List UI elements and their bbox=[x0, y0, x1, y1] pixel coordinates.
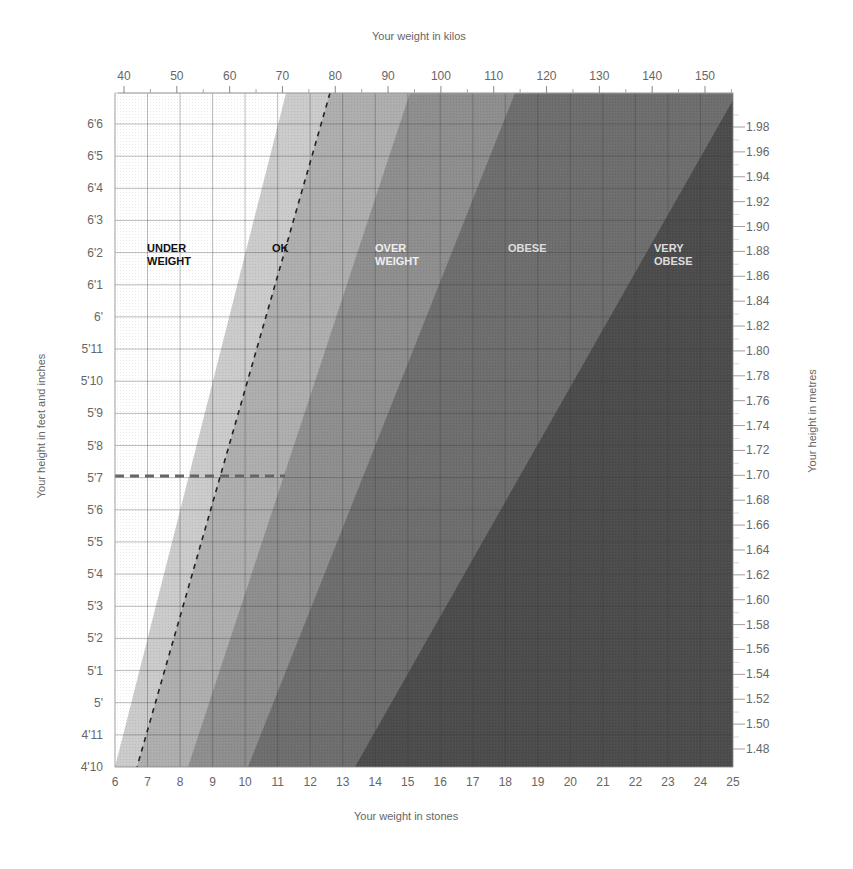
height-ft-tick-label: 5' bbox=[94, 696, 103, 710]
height-ft-tick-label: 6' bbox=[94, 310, 103, 324]
stone-tick-label: 8 bbox=[177, 775, 184, 789]
stone-tick-label: 19 bbox=[531, 775, 545, 789]
kilo-tick-label: 50 bbox=[170, 69, 184, 83]
height-m-tick-label: 1.58 bbox=[746, 618, 770, 632]
kilo-tick-label: 140 bbox=[642, 69, 662, 83]
stone-tick-label: 6 bbox=[112, 775, 119, 789]
left-axis-title: Your height in feet and inches bbox=[35, 354, 47, 499]
top-axis-title: Your weight in kilos bbox=[372, 30, 466, 42]
height-m-tick-label: 1.80 bbox=[746, 344, 770, 358]
height-ft-tick-label: 5'7 bbox=[87, 471, 103, 485]
height-m-tick-label: 1.48 bbox=[746, 742, 770, 756]
kilo-axis: 405060708090100110120130140150 bbox=[117, 69, 733, 93]
stone-tick-label: 24 bbox=[694, 775, 708, 789]
zone-label: VERY bbox=[654, 242, 684, 254]
kilo-tick-label: 150 bbox=[695, 69, 715, 83]
kilo-tick-label: 40 bbox=[117, 69, 131, 83]
height-ft-tick-label: 6'2 bbox=[87, 246, 103, 260]
height-ft-tick-label: 5'11 bbox=[82, 342, 104, 356]
stone-tick-label: 18 bbox=[499, 775, 513, 789]
zone-label: WEIGHT bbox=[147, 255, 191, 267]
zone-label: OBESE bbox=[654, 255, 693, 267]
stone-tick-label: 21 bbox=[596, 775, 610, 789]
stone-tick-label: 14 bbox=[369, 775, 383, 789]
height-m-tick-label: 1.68 bbox=[746, 493, 770, 507]
height-ft-tick-label: 4'11 bbox=[82, 728, 104, 742]
stone-tick-label: 22 bbox=[629, 775, 643, 789]
height-ft-tick-label: 6'3 bbox=[87, 213, 103, 227]
stone-tick-label: 17 bbox=[466, 775, 480, 789]
zone-label: WEIGHT bbox=[375, 255, 419, 267]
height-ft-tick-label: 5'8 bbox=[87, 439, 103, 453]
right-axis-title: Your height in metres bbox=[806, 369, 818, 473]
kilo-tick-label: 110 bbox=[484, 69, 503, 83]
height-ft-tick-label: 5'1 bbox=[87, 664, 103, 678]
stone-tick-label: 10 bbox=[238, 775, 252, 789]
kilo-tick-label: 90 bbox=[381, 69, 395, 83]
bmi-chart: UNDERWEIGHTOKOVERWEIGHTOBESEVERYOBESE 40… bbox=[0, 0, 853, 869]
stone-axis: 678910111213141516171819202122232425 bbox=[112, 775, 740, 789]
stone-tick-label: 20 bbox=[564, 775, 578, 789]
kilo-tick-label: 130 bbox=[589, 69, 609, 83]
height-m-tick-label: 1.64 bbox=[746, 543, 770, 557]
height-ft-tick-label: 6'6 bbox=[87, 117, 103, 131]
kilo-tick-label: 120 bbox=[537, 69, 557, 83]
texture bbox=[115, 93, 733, 767]
kilo-tick-label: 80 bbox=[329, 69, 343, 83]
height-m-tick-label: 1.74 bbox=[746, 419, 770, 433]
height-ft-tick-label: 6'5 bbox=[87, 149, 103, 163]
height-ft-tick-label: 5'10 bbox=[81, 374, 104, 388]
height-m-tick-label: 1.96 bbox=[746, 145, 770, 159]
height-m-tick-label: 1.84 bbox=[746, 294, 770, 308]
metres-axis: 1.981.961.941.921.901.881.861.841.821.80… bbox=[733, 115, 770, 756]
height-m-tick-label: 1.90 bbox=[746, 220, 770, 234]
stone-tick-label: 23 bbox=[661, 775, 675, 789]
height-ft-tick-label: 6'4 bbox=[87, 181, 103, 195]
zone-label: UNDER bbox=[147, 242, 186, 254]
height-m-tick-label: 1.94 bbox=[746, 170, 770, 184]
height-ft-tick-label: 5'2 bbox=[87, 631, 103, 645]
stone-tick-label: 7 bbox=[144, 775, 151, 789]
height-ft-tick-label: 5'4 bbox=[87, 567, 103, 581]
stone-tick-label: 13 bbox=[336, 775, 350, 789]
height-m-tick-label: 1.88 bbox=[746, 244, 770, 258]
height-ft-tick-label: 5'5 bbox=[87, 535, 103, 549]
kilo-tick-label: 60 bbox=[223, 69, 237, 83]
bottom-axis-title: Your weight in stones bbox=[354, 810, 458, 822]
height-m-tick-label: 1.62 bbox=[746, 568, 770, 582]
feet-inches-axis: 6'66'56'46'36'26'16'5'115'105'95'85'75'6… bbox=[81, 117, 104, 774]
height-m-tick-label: 1.52 bbox=[746, 692, 770, 706]
height-m-tick-label: 1.92 bbox=[746, 195, 770, 209]
height-m-tick-label: 1.78 bbox=[746, 369, 770, 383]
height-m-tick-label: 1.50 bbox=[746, 717, 770, 731]
height-m-tick-label: 1.54 bbox=[746, 667, 770, 681]
height-m-tick-label: 1.60 bbox=[746, 593, 770, 607]
height-m-tick-label: 1.86 bbox=[746, 269, 770, 283]
height-ft-tick-label: 5'9 bbox=[87, 406, 103, 420]
height-ft-tick-label: 5'6 bbox=[87, 503, 103, 517]
zone-bands bbox=[115, 93, 733, 767]
zone-label: OBESE bbox=[508, 242, 547, 254]
kilo-tick-label: 100 bbox=[431, 69, 451, 83]
stone-tick-label: 25 bbox=[726, 775, 740, 789]
height-m-tick-label: 1.56 bbox=[746, 642, 770, 656]
height-ft-tick-label: 4'10 bbox=[81, 760, 104, 774]
stone-tick-label: 15 bbox=[401, 775, 415, 789]
height-m-tick-label: 1.98 bbox=[746, 120, 770, 134]
zone-label: OK bbox=[272, 242, 289, 254]
kilo-tick-label: 70 bbox=[276, 69, 290, 83]
height-ft-tick-label: 5'3 bbox=[87, 599, 103, 613]
height-m-tick-label: 1.76 bbox=[746, 394, 770, 408]
height-m-tick-label: 1.70 bbox=[746, 468, 770, 482]
stone-tick-label: 12 bbox=[303, 775, 317, 789]
stone-tick-label: 9 bbox=[209, 775, 216, 789]
height-m-tick-label: 1.72 bbox=[746, 443, 770, 457]
height-m-tick-label: 1.66 bbox=[746, 518, 770, 532]
zone-label: OVER bbox=[375, 242, 406, 254]
height-ft-tick-label: 6'1 bbox=[87, 278, 103, 292]
stone-tick-label: 16 bbox=[434, 775, 448, 789]
height-m-tick-label: 1.82 bbox=[746, 319, 770, 333]
stone-tick-label: 11 bbox=[271, 775, 284, 789]
